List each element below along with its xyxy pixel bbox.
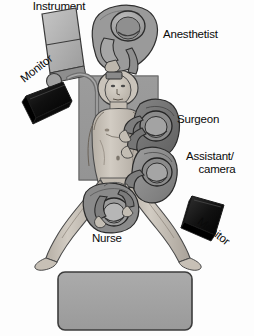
figure-canvas: Anesthetist Surgeon Assistant/ camera Nu… (0, 0, 254, 336)
instrument-table (58, 272, 192, 330)
staff-anesthetist (92, 5, 157, 79)
staff-nurse (83, 182, 139, 233)
label-anesthetist: Anesthetist (163, 28, 218, 41)
label-assistant-line2: camera (186, 163, 248, 176)
label-assistant-line1: Assistant/ (186, 150, 234, 163)
anesthesia-machine (42, 8, 86, 83)
label-surgeon: Surgeon (177, 113, 219, 126)
label-nurse: Nurse (92, 232, 122, 245)
